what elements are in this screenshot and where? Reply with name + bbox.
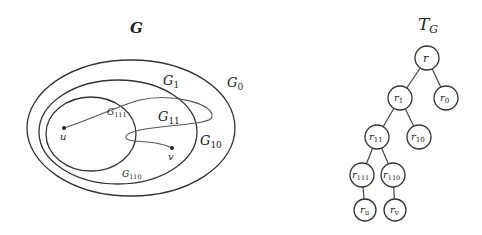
label-g0: G0 xyxy=(227,75,243,92)
label-g1: G1 xyxy=(163,73,179,90)
tree-title: TG xyxy=(418,14,438,36)
tree-node-ru: ru xyxy=(354,199,376,221)
point-u xyxy=(62,126,66,130)
decomposition-tree: TG r r1 r0 r11 r10 xyxy=(350,14,458,221)
tree-node-r10: r10 xyxy=(407,125,431,149)
path-u-v xyxy=(64,98,212,148)
svg-text:G1: G1 xyxy=(163,73,179,90)
svg-text:G0: G0 xyxy=(227,75,243,92)
tree-node-r0: r0 xyxy=(434,86,458,110)
svg-text:G11: G11 xyxy=(158,109,180,126)
point-v-label: v xyxy=(168,151,174,162)
point-u-label: u xyxy=(60,131,66,142)
region-diagram: G u v G1 G0 G11 G10 G111 G110 xyxy=(27,19,243,196)
tree-node-rv: rv xyxy=(384,199,406,221)
tree-node-r1: r1 xyxy=(388,86,412,110)
point-v xyxy=(170,146,174,150)
label-g110: G110 xyxy=(122,169,142,181)
diagram-canvas: G u v G1 G0 G11 G10 G111 G110 TG xyxy=(0,0,482,235)
tree-node-r111: r111 xyxy=(350,163,374,187)
tree-node-r110: r110 xyxy=(381,163,405,187)
tree-node-r: r xyxy=(415,46,439,70)
label-g11: G11 xyxy=(158,109,180,126)
svg-text:r: r xyxy=(423,52,429,65)
svg-text:G10: G10 xyxy=(200,133,222,150)
graph-title: G xyxy=(130,19,143,37)
tree-node-r11: r11 xyxy=(365,125,389,149)
label-g10: G10 xyxy=(200,133,222,150)
svg-text:G110: G110 xyxy=(122,169,142,181)
